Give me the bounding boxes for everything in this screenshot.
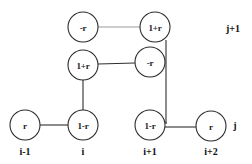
diagram-canvas: -r 1+r 1+r -r r 1-r	[0, 0, 252, 164]
node-label: 1-r	[78, 121, 89, 131]
lattice-diagram: -r 1+r 1+r -r r 1-r	[0, 0, 252, 164]
node-label: 1-r	[145, 121, 156, 131]
node-group: -r 1+r 1+r -r r 1-r	[10, 12, 226, 141]
column-label-i-plus-2: i+2	[204, 146, 217, 157]
column-label-group: i-1 i i+1 i+2	[19, 146, 217, 157]
column-label-i-plus-1: i+1	[143, 146, 156, 157]
node-middle-i-plus-1[interactable]: -r	[135, 47, 165, 77]
node-top-i-plus-1[interactable]: 1+r	[140, 12, 170, 42]
node-label: -r	[80, 23, 87, 33]
edge-group	[40, 27, 196, 127]
edge-middle-horizontal	[98, 63, 135, 64]
node-bottom-i-minus-1[interactable]: r	[10, 110, 40, 140]
node-bottom-i-plus-1[interactable]: 1-r	[135, 110, 165, 140]
node-label: -r	[147, 58, 154, 68]
node-bottom-i[interactable]: 1-r	[68, 110, 98, 140]
row-label-j-plus-1: j+1	[225, 23, 240, 34]
node-label: r	[209, 122, 213, 132]
node-top-i[interactable]: -r	[68, 12, 98, 42]
node-label: r	[23, 121, 27, 131]
node-bottom-i-plus-2[interactable]: r	[196, 111, 226, 141]
column-label-i: i	[82, 146, 85, 157]
node-label: 1+r	[76, 61, 89, 71]
node-label: 1+r	[148, 23, 161, 33]
column-label-i-minus-1: i-1	[19, 146, 30, 157]
row-label-j: j	[232, 120, 236, 131]
row-label-group: j+1 j	[225, 23, 240, 131]
node-middle-i[interactable]: 1+r	[68, 50, 98, 80]
